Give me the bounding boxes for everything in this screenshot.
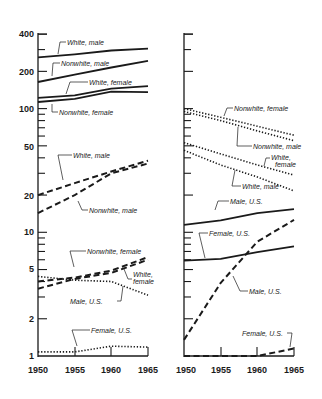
right-panel-axes: [184, 33, 294, 357]
right-annotations: Nonwhite, female Nonwhite, male White, f…: [209, 105, 301, 337]
y-tick-1: 1: [29, 351, 34, 361]
x-tick-1955: 1955: [211, 365, 231, 375]
series-line-white-male-solid: [38, 49, 148, 58]
y-tick-400: 400: [19, 29, 34, 39]
label-female-us-dotted: Female, U.S.: [91, 327, 132, 334]
y-tick-2: 2: [29, 314, 34, 324]
left-panel-series: [38, 49, 148, 352]
x-tick-1960: 1960: [101, 365, 121, 375]
label-white-female-dashed-2: female: [133, 278, 154, 285]
series-line-female-u-s-dotted: [38, 346, 148, 352]
label-white-female-1: White,: [271, 154, 291, 161]
y-tick-20: 20: [24, 191, 34, 201]
label-male-us-solid: Male, U.S.: [230, 198, 263, 205]
label-white-female-dashed-1: White,: [133, 271, 153, 278]
series-line-white-male-dashed: [38, 161, 148, 196]
label-male-us-dashed: Male, U.S.: [249, 288, 282, 295]
label-white-female-2: female: [275, 161, 296, 168]
y-tick-labels: 400 200 100 50 20 10 5 2 1: [19, 29, 34, 361]
series-line-female-u-s-solid: [184, 246, 294, 260]
label-nonwhite-female-solid: Nonwhite, female: [59, 109, 113, 116]
series-line-nonwhite-female-dotted: [184, 109, 294, 136]
x-tick-1965: 1965: [284, 365, 304, 375]
x-tick-1950: 1950: [28, 365, 48, 375]
label-white-female-solid: White, female: [89, 79, 132, 86]
label-female-us-solid: Female, U.S.: [209, 230, 250, 237]
y-tick-50: 50: [24, 142, 34, 152]
y-tick-10: 10: [24, 227, 34, 237]
series-line-nonwhite-male-dotted: [184, 111, 294, 140]
right-y-ticks: [184, 34, 193, 319]
left-annotations: White, male Nonwhite, male White, female…: [59, 39, 154, 334]
x-tick-1950: 1950: [176, 365, 196, 375]
y-tick-100: 100: [19, 104, 34, 114]
x-tick-1960: 1960: [247, 365, 267, 375]
label-white-male-dashed: White, male: [73, 152, 110, 159]
label-white-male-solid: White, male: [67, 39, 104, 46]
y-tick-200: 200: [19, 67, 34, 77]
label-nonwhite-female-dashed: Nonwhite, female: [87, 248, 141, 255]
series-line-male-u-s-solid: [184, 209, 294, 225]
x-tick-labels-left: 1950 1955 1960 1965: [28, 365, 158, 375]
left-x-ticks: [75, 347, 148, 356]
series-line-nonwhite-male-dashed: [38, 164, 148, 214]
label-nonwhite-female: Nonwhite, female: [234, 105, 288, 112]
label-nonwhite-male-dashed: Nonwhite, male: [89, 207, 137, 214]
label-nonwhite-male: Nonwhite, male: [253, 143, 301, 150]
x-tick-1965: 1965: [138, 365, 158, 375]
line-chart: 400 200 100 50 20 10 5 2 1 1950 1955 196…: [0, 0, 322, 399]
x-tick-1955: 1955: [65, 365, 85, 375]
label-female-us-dashed: Female, U.S.: [242, 330, 283, 337]
x-tick-labels-right: 1950 1955 1960 1965: [176, 365, 304, 375]
left-y-ticks: [38, 34, 47, 319]
series-line-female-u-s-dashed: [184, 349, 294, 357]
label-male-us-dotted: Male, U.S.: [70, 298, 103, 305]
label-nonwhite-male-solid: Nonwhite, male: [61, 60, 109, 67]
label-white-male: White, male: [242, 183, 279, 190]
y-tick-5: 5: [29, 264, 34, 274]
